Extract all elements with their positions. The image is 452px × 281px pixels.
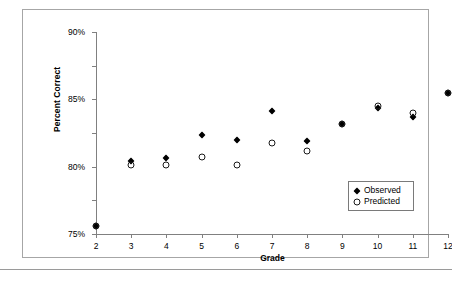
y-tick-mark: 75% <box>92 133 96 134</box>
x-tick-label: 8 <box>305 242 310 251</box>
data-point-predicted <box>233 162 240 169</box>
x-axis-title: Grade <box>96 253 449 263</box>
open-circle-icon <box>352 197 362 207</box>
chart-legend: Observed Predicted <box>348 181 414 211</box>
data-point-observed <box>198 132 205 139</box>
x-tick-label: 3 <box>129 242 134 251</box>
y-tick-label: 85% <box>68 95 85 104</box>
data-point-predicted <box>445 89 452 96</box>
x-tick-mark <box>166 234 167 238</box>
y-tick-mark: 80% <box>92 99 96 100</box>
legend-label-observed: Observed <box>364 186 401 195</box>
y-tick-mark: 90% <box>92 32 96 33</box>
data-point-predicted <box>269 140 276 147</box>
x-tick-label: 11 <box>408 242 417 251</box>
x-tick-label: 6 <box>234 242 239 251</box>
data-point-predicted <box>198 154 205 161</box>
x-tick-mark <box>96 234 97 238</box>
data-point-observed <box>163 154 170 161</box>
data-point-predicted <box>304 148 311 155</box>
data-point-observed <box>269 107 276 114</box>
data-point-observed <box>233 137 240 144</box>
y-tick-label: 90% <box>68 28 85 37</box>
filled-diamond-icon <box>352 186 362 196</box>
data-point-predicted <box>374 103 381 110</box>
legend-item-predicted: Predicted <box>352 196 409 207</box>
y-tick-label: 80% <box>68 162 85 171</box>
legend-label-predicted: Predicted <box>364 197 400 206</box>
data-point-observed <box>304 138 311 145</box>
data-point-predicted <box>339 121 346 128</box>
data-point-predicted <box>93 222 100 229</box>
x-tick-mark <box>272 234 273 238</box>
x-tick-mark <box>378 234 379 238</box>
data-point-predicted <box>409 109 416 116</box>
figure-container: Percent Correct Grade 60%65%70%75%80%85%… <box>0 0 452 281</box>
x-tick-mark <box>448 234 449 238</box>
y-tick-mark: 85% <box>92 66 96 67</box>
data-point-predicted <box>128 162 135 169</box>
x-tick-label: 10 <box>373 242 382 251</box>
horizontal-rule <box>0 269 452 270</box>
x-tick-label: 7 <box>270 242 275 251</box>
legend-item-observed: Observed <box>352 185 409 196</box>
x-tick-label: 9 <box>340 242 345 251</box>
x-tick-mark <box>202 234 203 238</box>
data-point-predicted <box>163 162 170 169</box>
x-tick-label: 12 <box>443 242 452 251</box>
x-tick-label: 5 <box>199 242 204 251</box>
x-tick-mark <box>131 234 132 238</box>
x-tick-mark <box>342 234 343 238</box>
x-tick-mark <box>307 234 308 238</box>
x-tick-label: 4 <box>164 242 169 251</box>
y-axis-title: Percent Correct <box>52 67 62 132</box>
y-tick-mark: 70% <box>92 167 96 168</box>
x-tick-label: 2 <box>94 242 99 251</box>
x-tick-mark <box>413 234 414 238</box>
x-tick-mark <box>237 234 238 238</box>
chart-frame: Percent Correct Grade 60%65%70%75%80%85%… <box>22 9 429 258</box>
y-tick-label: 75% <box>68 230 85 239</box>
y-tick-mark: 65% <box>92 200 96 201</box>
